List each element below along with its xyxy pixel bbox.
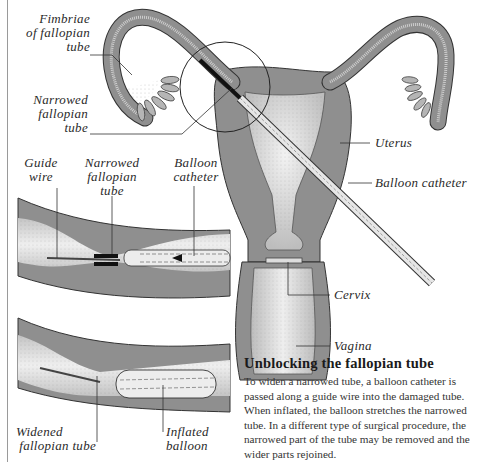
inset-narrowed-tube	[18, 198, 230, 298]
caption-title: Unblocking the fallopian tube	[244, 355, 474, 372]
label-balloon-catheter-inset-line2: catheter	[166, 170, 226, 184]
label-narrowed-inset-line3: tube	[80, 184, 144, 198]
label-narrowed-inset-line1: Narrowed	[80, 156, 144, 170]
label-narrowed-main-line3: tube	[18, 121, 88, 135]
label-narrowed-tube-inset: Narrowed fallopian tube	[80, 156, 144, 198]
label-balloon-catheter-inset-line1: Balloon	[166, 156, 226, 170]
label-uterus: Uterus	[375, 136, 412, 150]
uterus	[214, 67, 351, 262]
cervix-os	[266, 258, 302, 263]
label-inflated-balloon: Inflated balloon	[166, 425, 209, 453]
label-inflated-line1: Inflated	[166, 425, 209, 439]
label-fimbriae: Fimbriae of fallopian tube	[20, 12, 90, 54]
label-fimbriae-line3: tube	[20, 40, 90, 54]
label-widened-line1: Widened	[8, 425, 96, 439]
left-fallopian-tube	[111, 17, 232, 121]
label-cervix: Cervix	[334, 288, 370, 302]
label-vagina: Vagina	[334, 339, 372, 353]
label-guide-wire: Guide wire	[16, 156, 66, 184]
label-guide-wire-line1: Guide	[16, 156, 66, 170]
label-fimbriae-line2: of fallopian	[20, 26, 90, 40]
label-fimbriae-line1: Fimbriae	[20, 12, 90, 26]
label-narrowed-main-line1: Narrowed	[18, 93, 88, 107]
label-inflated-line2: balloon	[166, 439, 209, 453]
label-balloon-catheter-inset: Balloon catheter	[166, 156, 226, 184]
caption-body: To widen a narrowed tube, a balloon cath…	[244, 374, 474, 462]
caption: Unblocking the fallopian tube To widen a…	[244, 355, 474, 462]
label-narrowed-inset-line2: fallopian	[80, 170, 144, 184]
label-balloon-catheter-main: Balloon catheter	[375, 176, 467, 190]
label-widened-line2: fallopian tube	[8, 439, 96, 453]
inset-widened-tube	[18, 318, 230, 412]
label-guide-wire-line2: wire	[16, 170, 66, 184]
label-narrowed-main-line2: fallopian	[18, 107, 88, 121]
label-widened-tube: Widened fallopian tube	[8, 425, 96, 453]
label-narrowed-tube-main: Narrowed fallopian tube	[18, 93, 88, 135]
